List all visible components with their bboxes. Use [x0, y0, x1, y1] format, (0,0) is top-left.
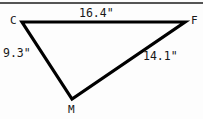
geometry-figure-canvas: C F M 16.4" 9.3" 14.1": [0, 0, 203, 119]
side-length-label-mf: 14.1": [143, 51, 178, 63]
side-length-label-cf: 16.4": [79, 8, 114, 20]
vertex-label-f: F: [191, 15, 198, 26]
vertex-label-m: M: [68, 104, 75, 115]
vertex-label-c: C: [10, 15, 17, 26]
side-length-label-cm: 9.3": [3, 48, 31, 60]
